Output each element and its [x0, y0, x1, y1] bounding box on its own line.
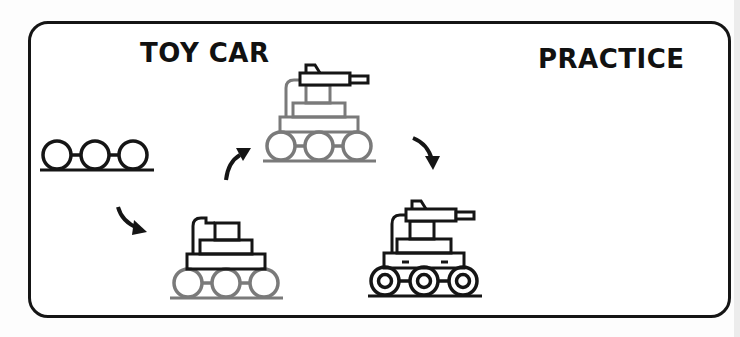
- curved-arrow-down-right-icon: [413, 138, 440, 170]
- step-4-finished-car-icon: [368, 201, 482, 296]
- step-1-wheels-icon: [40, 141, 154, 170]
- page-edge: [734, 0, 740, 337]
- curved-arrow-down-right-icon: [118, 207, 147, 235]
- step-2-body-icon: [170, 218, 283, 298]
- worksheet-page: TOY CAR PRACTICE: [0, 0, 740, 337]
- drawing-steps: [0, 0, 740, 337]
- step-3-turret-icon: [263, 65, 376, 161]
- curved-arrow-up-right-icon: [226, 148, 251, 180]
